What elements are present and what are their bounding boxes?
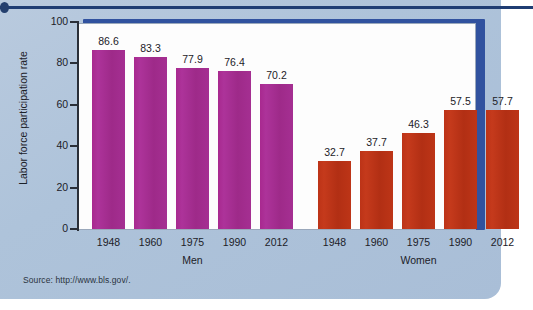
y-axis-tick (70, 228, 78, 230)
y-axis-tick-label: 0 (24, 222, 68, 234)
top-rule (0, 6, 533, 9)
x-axis-tick-label: 1960 (347, 236, 407, 248)
x-axis-tick-label: 1960 (121, 236, 181, 248)
y-axis-tick (70, 21, 78, 23)
y-axis-tick-label: 20 (24, 181, 68, 193)
bar-women-2012: 57.7 (486, 22, 519, 229)
source-note: Source: http://www.bls.gov/. (23, 275, 131, 285)
x-axis-tick-label: 1990 (205, 236, 265, 248)
group-label-men: Men (113, 254, 273, 266)
group-label-women: Women (339, 254, 499, 266)
x-axis-tick-label: 1975 (389, 236, 449, 248)
y-axis-title: Labor force participation rate (17, 33, 29, 203)
y-axis-tick (70, 104, 78, 106)
y-axis-line (77, 21, 79, 231)
plot-area (78, 23, 476, 230)
y-axis-tick-label: 100 (24, 15, 68, 27)
y-axis-tick (70, 62, 78, 64)
x-axis-tick-label: 2012 (247, 236, 307, 248)
y-axis-tick-label: 60 (24, 98, 68, 110)
y-axis-tick (70, 145, 78, 147)
bar-rect (486, 110, 519, 229)
x-axis-tick-label: 1948 (305, 236, 365, 248)
x-axis-tick-label: 1975 (163, 236, 223, 248)
plot-frame (78, 19, 485, 233)
x-axis-tick-label: 1948 (79, 236, 139, 248)
y-axis-tick (70, 187, 78, 189)
x-axis-tick-label: 1990 (431, 236, 491, 248)
y-axis-tick-label: 80 (24, 56, 68, 68)
x-axis-tick-label: 2012 (473, 236, 533, 248)
top-rule-cap (0, 2, 9, 13)
y-axis-tick-label: 40 (24, 139, 68, 151)
figure-panel: 020406080100 Labor force participation r… (0, 0, 501, 299)
